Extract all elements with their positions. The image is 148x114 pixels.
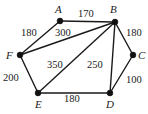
graph-node-a [57,18,63,24]
edge-weight-b-e: 350 [47,60,63,71]
node-label-d: D [106,99,114,110]
weighted-graph-diagram: ABCDEF 170180300180350250100200180 [0,0,148,114]
edge-weight-c-d: 100 [126,75,142,86]
edge-weight-a-f: 180 [21,28,37,39]
node-label-b: B [110,4,117,15]
graph-edge-b-e [38,22,115,93]
graph-node-c [130,52,136,58]
node-label-e: E [35,99,42,110]
node-label-c: C [138,50,145,61]
graph-edge-b-d [110,22,115,93]
node-label-a: A [55,4,62,15]
graph-node-f [17,52,23,58]
node-label-f: F [6,50,13,61]
graph-node-b [112,19,118,25]
graph-node-e [35,90,41,96]
graph-node-d [107,90,113,96]
edge-weight-f-e: 200 [3,73,19,84]
edge-weight-b-f: 300 [55,28,71,39]
edge-weight-b-c: 180 [126,28,142,39]
edge-weight-b-d: 250 [87,60,103,71]
edge-weight-e-d: 180 [64,94,80,105]
graph-edge-f-e [20,55,38,93]
graph-edge-a-b [60,21,115,22]
graph-edges-group [20,21,133,93]
edge-weight-a-b: 170 [78,9,94,20]
